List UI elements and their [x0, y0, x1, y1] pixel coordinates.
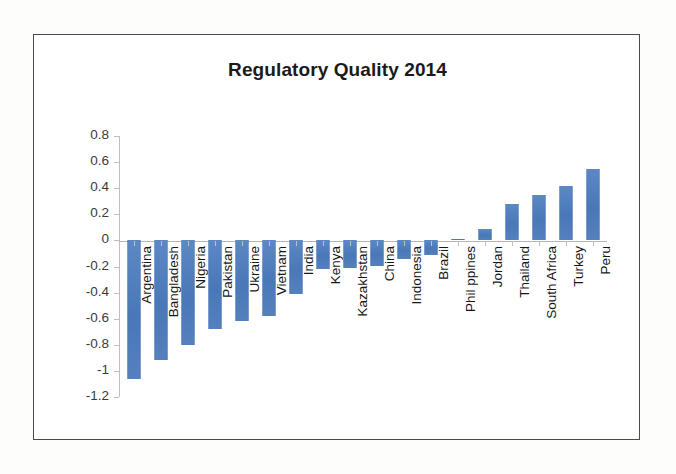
- x-axis-tick-mark: [485, 241, 486, 246]
- y-axis-tick-label: -0.8: [86, 336, 109, 351]
- y-axis-tick-mark: [114, 319, 119, 320]
- bar-group[interactable]: India: [282, 136, 309, 397]
- x-axis-tick-mark: [377, 241, 378, 246]
- bar-group[interactable]: Kazakhstan: [336, 136, 363, 397]
- bar-group[interactable]: South Africa: [525, 136, 552, 397]
- y-axis-tick-label: 0: [101, 231, 109, 246]
- x-axis-tick-mark: [296, 241, 297, 246]
- x-axis-tick-mark: [269, 241, 270, 246]
- chart-frame: Regulatory Quality 2014 0.80.60.40.20-0.…: [33, 34, 640, 440]
- bar-group[interactable]: Pakistan: [201, 136, 228, 397]
- y-axis-tick-mark: [114, 214, 119, 215]
- bar-group[interactable]: Thailand: [498, 136, 525, 397]
- x-axis-tick-mark: [593, 241, 594, 246]
- bar-group[interactable]: Argentina: [120, 136, 147, 397]
- x-axis-tick-mark: [404, 241, 405, 246]
- x-axis-tick-mark: [215, 241, 216, 246]
- bar-group[interactable]: Kenya: [309, 136, 336, 397]
- chart-title: Regulatory Quality 2014: [34, 59, 641, 81]
- bar-group[interactable]: Vietnam: [255, 136, 282, 397]
- y-axis-tick-mark: [114, 162, 119, 163]
- bar-group[interactable]: Bangladesh: [147, 136, 174, 397]
- y-axis-tick-label: 0.6: [90, 153, 109, 168]
- y-axis-tick-label: 0.2: [90, 205, 109, 220]
- y-axis-tick-label: -0.2: [86, 258, 109, 273]
- x-axis-tick-mark: [323, 241, 324, 246]
- bar-group[interactable]: Jordan: [471, 136, 498, 397]
- bar-group[interactable]: Indonesia: [390, 136, 417, 397]
- x-axis-tick-mark: [134, 241, 135, 246]
- bar[interactable]: [478, 229, 491, 241]
- bar[interactable]: [586, 169, 599, 240]
- x-axis-tick-mark: [512, 241, 513, 246]
- x-axis-tick-mark: [350, 241, 351, 246]
- bar-group[interactable]: Brazil: [417, 136, 444, 397]
- y-axis-tick-label: -0.6: [86, 310, 109, 325]
- x-axis-tick-mark: [458, 241, 459, 246]
- y-axis-tick-mark: [114, 345, 119, 346]
- y-axis-tick-label: 0.4: [90, 179, 109, 194]
- bar-group[interactable]: Turkey: [552, 136, 579, 397]
- y-axis-tick-label: -1.2: [86, 388, 109, 403]
- bar-group[interactable]: Phil ppines: [444, 136, 471, 397]
- plot-area: 0.80.60.40.20-0.2-0.4-0.6-0.8-1-1.2 Arge…: [119, 136, 607, 397]
- x-axis-category-label: Peru: [598, 246, 613, 275]
- x-axis-tick-mark: [161, 241, 162, 246]
- y-axis-tick-mark: [114, 188, 119, 189]
- x-axis-tick-mark: [188, 241, 189, 246]
- y-axis-tick-label: -1: [97, 362, 109, 377]
- bar[interactable]: [559, 186, 572, 241]
- y-axis-tick-mark: [114, 397, 119, 398]
- x-axis-tick-mark: [539, 241, 540, 246]
- y-axis-tick-mark: [114, 267, 119, 268]
- y-axis-tick-label: 0.8: [90, 127, 109, 142]
- bar-group[interactable]: Nigeria: [174, 136, 201, 397]
- bar-group[interactable]: China: [363, 136, 390, 397]
- bar-group[interactable]: Peru: [579, 136, 606, 397]
- bar-series: ArgentinaBangladeshNigeriaPakistanUkrain…: [120, 136, 607, 397]
- y-axis-tick-mark: [114, 136, 119, 137]
- bar-group[interactable]: Ukraine: [228, 136, 255, 397]
- bar[interactable]: [505, 204, 518, 241]
- x-axis-tick-mark: [242, 241, 243, 246]
- y-axis-tick-mark: [114, 293, 119, 294]
- y-axis-tick-mark: [114, 371, 119, 372]
- x-axis-tick-mark: [431, 241, 432, 246]
- bar[interactable]: [532, 195, 545, 241]
- screenshot-page: Regulatory Quality 2014 0.80.60.40.20-0.…: [0, 0, 676, 474]
- y-axis-tick-label: -0.4: [86, 284, 109, 299]
- x-axis-tick-mark: [566, 241, 567, 246]
